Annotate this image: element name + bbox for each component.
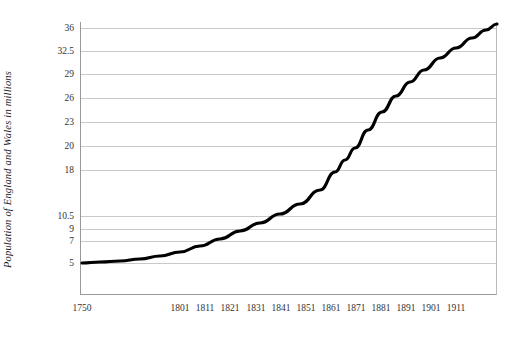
x-axis-tick-label: 1801	[171, 303, 190, 313]
x-axis-tick-label: 1750	[73, 303, 92, 313]
y-axis-tick-label: 23	[65, 117, 75, 127]
plot-area	[80, 22, 497, 295]
x-axis-tick-label: 1911	[447, 303, 466, 313]
x-axis-tick-label: 1811	[196, 303, 215, 313]
x-axis-tick-label: 1891	[397, 303, 416, 313]
y-axis-tick-label: 18	[65, 165, 75, 175]
population-line-series	[80, 22, 497, 295]
y-axis-tick-label: 26	[65, 93, 75, 103]
x-axis-tick-label: 1851	[297, 303, 316, 313]
x-axis-tick-label: 1881	[372, 303, 391, 313]
x-axis-tick-label: 1861	[322, 303, 341, 313]
x-axis-tick-label: 1841	[272, 303, 291, 313]
y-axis-tick-label: 5	[69, 258, 74, 268]
y-axis-tick-label: 36	[65, 23, 75, 33]
x-axis-tick-label: 1871	[347, 303, 366, 313]
x-axis-tick-label: 1831	[247, 303, 266, 313]
y-axis-tick-label: 10.5	[57, 211, 74, 221]
x-axis-tick-labels: 1750180118111821183118411851186118711881…	[0, 303, 520, 323]
chart-screenshot: Population of England and Wales in milli…	[0, 0, 520, 339]
x-axis-tick-label: 1821	[221, 303, 240, 313]
y-axis-tick-label: 20	[65, 141, 75, 151]
y-axis-tick-label: 9	[69, 224, 74, 234]
y-axis-tick-label: 29	[65, 69, 75, 79]
y-axis-tick-labels: 3632.5292623201810.5975	[0, 22, 78, 295]
y-axis-tick-label: 7	[69, 236, 74, 246]
y-axis-tick-label: 32.5	[57, 46, 74, 56]
population-line-path	[82, 24, 497, 263]
x-axis-tick-label: 1901	[422, 303, 441, 313]
